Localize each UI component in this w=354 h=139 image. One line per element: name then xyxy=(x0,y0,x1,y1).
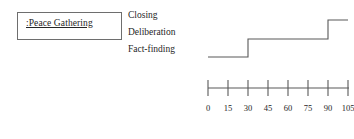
axis-tick-label: 30 xyxy=(244,103,253,113)
object-box[interactable]: :Peace Gathering xyxy=(17,12,122,40)
state-step-line xyxy=(208,20,348,57)
axis-tick-label: 0 xyxy=(206,103,210,113)
axis-tick-label: 90 xyxy=(324,103,333,113)
axis-tick-label: 45 xyxy=(264,103,273,113)
axis-tick-label-group: 0153045607590105 xyxy=(206,103,354,113)
phase-label-deliberation: Deliberation xyxy=(128,27,204,44)
phase-label-fact-finding: Fact-finding xyxy=(128,44,204,61)
phase-label-closing: Closing xyxy=(128,10,204,27)
axis-tick-label: 75 xyxy=(304,103,313,113)
object-box-label: :Peace Gathering xyxy=(26,17,93,29)
axis-tick-label: 105 xyxy=(342,103,354,113)
timing-diagram: :Peace Gathering Closing Deliberation Fa… xyxy=(0,0,354,139)
axis-tick-label: 15 xyxy=(224,103,233,113)
phase-label-list: Closing Deliberation Fact-finding xyxy=(128,10,204,61)
state-timeline-chart: 0153045607590105 xyxy=(196,8,354,118)
axis-tick-label: 60 xyxy=(284,103,293,113)
